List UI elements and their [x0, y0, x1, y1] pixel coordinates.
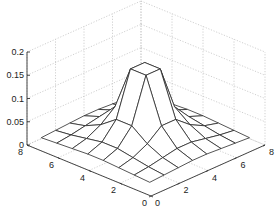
left-axis-tick — [120, 183, 122, 184]
left-axis-tick — [58, 158, 60, 159]
z-axis-tick-label: 0.15 — [6, 70, 24, 80]
z-axis-tick-label: 0 — [19, 140, 24, 150]
right-axis-tick — [235, 158, 237, 159]
left-axis-tick — [151, 196, 153, 197]
left-axis-tick-label: 6 — [49, 160, 54, 170]
mesh-surface — [41, 63, 249, 183]
right-axis-tick-label: 6 — [241, 160, 246, 170]
z-axis-tick-label: 0.2 — [11, 47, 24, 57]
right-axis-tick-label: 4 — [212, 173, 217, 183]
right-axis-tick — [178, 183, 180, 184]
left-axis-tick-label: 0 — [142, 198, 147, 208]
right-axis-tick — [149, 196, 151, 197]
left-axis-tick-label: 2 — [111, 185, 116, 195]
left-axis-tick — [89, 171, 91, 172]
right-axis-tick-label: 8 — [269, 147, 274, 157]
right-axis-tick — [263, 145, 265, 146]
z-axis-tick-label: 0.05 — [6, 117, 24, 127]
right-axis-tick-label: 0 — [155, 198, 160, 208]
right-axis-tick — [206, 171, 208, 172]
left-axis-tick-label: 4 — [80, 173, 85, 183]
right-axis-tick-label: 2 — [184, 185, 189, 195]
z-axis-tick-label: 0.1 — [11, 94, 24, 104]
surface-plot: 024680246800.050.10.150.2 — [0, 0, 275, 212]
